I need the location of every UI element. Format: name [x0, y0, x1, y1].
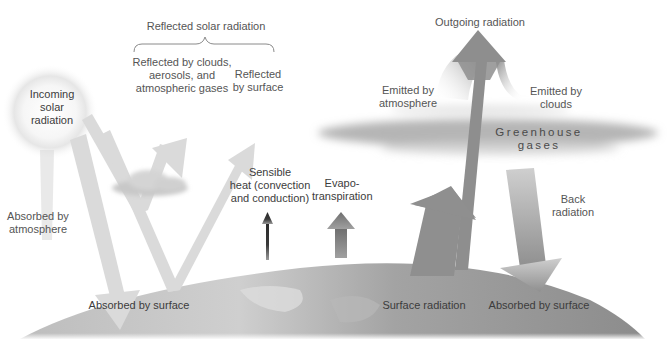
reflected-solar-label: Reflected solar radiation: [145, 20, 267, 33]
sensible-heat-arrow: [262, 212, 273, 260]
surface-radiation-label: Surface radiation: [376, 299, 472, 312]
outgoing-radiation-label: Outgoing radiation: [428, 16, 532, 29]
back-radiation-label: Back radiation: [548, 193, 598, 219]
greenhouse-gases-label: Greenhouse gases: [474, 126, 604, 152]
surface-radiation-arrow-body: [410, 205, 462, 276]
back-radiation-arrow: [500, 168, 562, 292]
energy-balance-diagram: [0, 0, 668, 339]
reflected-by-surface-label: Reflected by surface: [228, 68, 288, 94]
reflected-by-clouds-label: Reflected by clouds, aerosols, and atmos…: [127, 56, 237, 95]
absorbed-by-surface-right-label: Absorbed by surface: [484, 299, 594, 312]
sensible-heat-label: Sensible heat (convection and conduction…: [228, 166, 312, 205]
reflected-solar-bracket: [134, 37, 274, 52]
emitted-by-clouds-label: Emitted by clouds: [524, 85, 588, 111]
absorbed-by-surface-left-label: Absorbed by surface: [84, 299, 194, 312]
absorbed-by-atmosphere-label: Absorbed by atmosphere: [6, 210, 70, 236]
evapotranspiration-label: Evapo- transpiration: [312, 177, 372, 203]
incoming-solar-label: Incoming solar radiation: [22, 88, 82, 127]
emitted-by-atmosphere-label: Emitted by atmosphere: [374, 84, 442, 110]
emitted-by-clouds-arrow: [496, 60, 522, 100]
evapotranspiration-arrow: [327, 212, 355, 258]
